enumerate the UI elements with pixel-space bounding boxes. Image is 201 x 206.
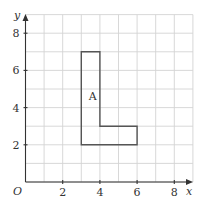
y-tick-labels: 2468 bbox=[13, 27, 20, 152]
x-axis-label: x bbox=[186, 185, 193, 198]
y-tick-label: 4 bbox=[13, 102, 20, 115]
x-tick-label: 2 bbox=[59, 186, 66, 199]
x-tick-labels: 2468 bbox=[59, 186, 178, 199]
y-axis-label: y bbox=[13, 9, 21, 22]
x-tick-label: 4 bbox=[96, 186, 103, 199]
x-tick-label: 6 bbox=[134, 186, 141, 199]
coordinate-diagram: x y O 2468 2468 A bbox=[0, 0, 201, 206]
y-tick-label: 8 bbox=[13, 27, 20, 40]
y-tick-label: 2 bbox=[13, 139, 20, 152]
shape-a-label: A bbox=[88, 90, 98, 103]
origin-label: O bbox=[13, 185, 22, 198]
grid-lines bbox=[26, 15, 193, 182]
x-tick-label: 8 bbox=[171, 186, 178, 199]
y-axis-arrow-icon bbox=[23, 14, 29, 21]
axis-ticks bbox=[24, 33, 175, 184]
y-tick-label: 6 bbox=[13, 64, 20, 77]
